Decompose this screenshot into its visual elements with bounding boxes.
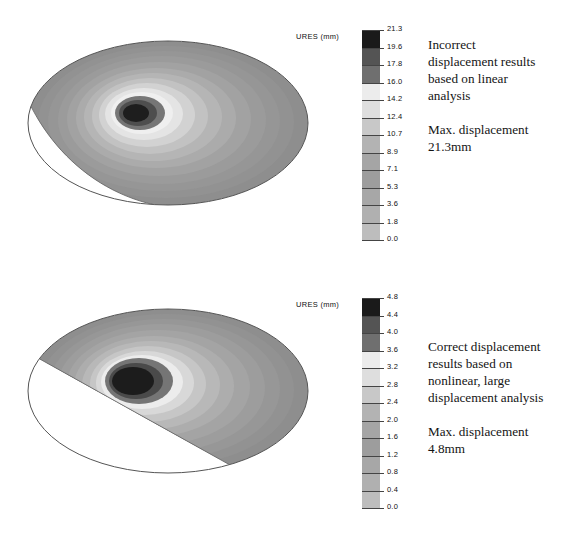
colorbar-tick: 4.8	[362, 298, 416, 299]
colorbar-tick: 3.6	[362, 351, 416, 352]
tick-line	[362, 223, 384, 224]
tick-line	[362, 508, 384, 509]
tick-line	[362, 473, 384, 474]
colorbar-tick: 7.1	[362, 170, 416, 171]
tick-label: 4.4	[387, 310, 398, 319]
tick-label: 4.8	[387, 292, 398, 301]
tick-line	[362, 170, 384, 171]
tick-line	[362, 48, 384, 49]
tick-line	[362, 386, 384, 387]
colorbar-tick: 1.8	[362, 223, 416, 224]
colorbar-tick: 4.4	[362, 316, 416, 317]
colorbar-tick: 1.6	[362, 438, 416, 439]
colorbar-tick: 0.0	[362, 240, 416, 241]
tick-label: 5.3	[387, 182, 398, 191]
tick-line	[362, 118, 384, 119]
panel-nonlinear-analysis: URES (mm) 4.8 4.4 4.0 3.6 3.2 2.8 2.4 2.…	[0, 268, 580, 536]
tick-label: 2.8	[387, 380, 398, 389]
tick-label: 1.8	[387, 217, 398, 226]
colorbar-tick: 12.4	[362, 118, 416, 119]
tick-line	[362, 351, 384, 352]
colorbar-tick: 2.0	[362, 421, 416, 422]
caption-max-label: Max. displacement	[428, 121, 576, 138]
tick-label: 2.0	[387, 415, 398, 424]
tick-label: 3.6	[387, 345, 398, 354]
caption-spacer	[428, 406, 576, 423]
colorbar-tick: 21.3	[362, 30, 416, 31]
tick-label: 1.6	[387, 432, 398, 441]
colorbar-tick: 0.8	[362, 473, 416, 474]
caption-max-value: 4.8mm	[428, 440, 576, 457]
caption-line: Correct displacement	[428, 338, 576, 355]
panel-linear-analysis: URES (mm) 21.3 19.6 17.8 16.0 14.2 12.4 …	[0, 0, 580, 268]
colorbar-tick: 8.9	[362, 153, 416, 154]
caption-line: results based on	[428, 355, 576, 372]
tick-line	[362, 438, 384, 439]
tick-line	[362, 421, 384, 422]
tick-line	[362, 403, 384, 404]
colorbar-tick: 1.2	[362, 456, 416, 457]
colorbar-linear: URES (mm) 21.3 19.6 17.8 16.0 14.2 12.4 …	[296, 8, 416, 258]
tick-line	[362, 188, 384, 189]
colorbar-tick: 2.4	[362, 403, 416, 404]
contour-plot-nonlinear	[18, 286, 318, 501]
tick-label: 4.0	[387, 327, 398, 336]
caption-nonlinear: Correct displacement results based on no…	[428, 338, 576, 457]
tick-line	[362, 30, 384, 31]
colorbar-tick: 10.7	[362, 135, 416, 136]
tick-line	[362, 153, 384, 154]
tick-label: 21.3	[387, 24, 402, 33]
colorbar-tick: 14.2	[362, 100, 416, 101]
tick-label: 10.7	[387, 129, 402, 138]
tick-line	[362, 100, 384, 101]
colorbar-title: URES (mm)	[296, 32, 339, 41]
tick-label: 17.8	[387, 59, 402, 68]
tick-line	[362, 83, 384, 84]
tick-line	[362, 456, 384, 457]
colorbar-title: URES (mm)	[296, 300, 339, 309]
contour-bands-nonlinear	[18, 286, 318, 501]
colorbar-tick: 0.0	[362, 508, 416, 509]
caption-line: based on linear	[428, 70, 576, 87]
colorbar-ticks: 4.8 4.4 4.0 3.6 3.2 2.8 2.4 2.0 1.6 1.2 …	[362, 298, 416, 508]
tick-line	[362, 298, 384, 299]
tick-label: 19.6	[387, 42, 402, 51]
colorbar-tick: 4.0	[362, 333, 416, 334]
tick-label: 2.4	[387, 397, 398, 406]
colorbar-tick: 3.2	[362, 368, 416, 369]
colorbar-ticks: 21.3 19.6 17.8 16.0 14.2 12.4 10.7 8.9 7…	[362, 30, 416, 240]
colorbar-tick: 17.8	[362, 65, 416, 66]
tick-line	[362, 240, 384, 241]
tick-line	[362, 368, 384, 369]
tick-line	[362, 491, 384, 492]
caption-linear: Incorrect displacement results based on …	[428, 36, 576, 155]
tick-label: 12.4	[387, 112, 402, 121]
tick-label: 0.4	[387, 485, 398, 494]
colorbar-tick: 3.6	[362, 205, 416, 206]
caption-line: analysis	[428, 87, 576, 104]
tick-label: 7.1	[387, 164, 398, 173]
caption-spacer	[428, 104, 576, 121]
colorbar-tick: 5.3	[362, 188, 416, 189]
tick-line	[362, 316, 384, 317]
colorbar-nonlinear: URES (mm) 4.8 4.4 4.0 3.6 3.2 2.8 2.4 2.…	[296, 276, 416, 526]
tick-label: 14.2	[387, 94, 402, 103]
colorbar-tick: 16.0	[362, 83, 416, 84]
tick-label: 3.6	[387, 199, 398, 208]
tick-line	[362, 333, 384, 334]
contour-bands-linear	[18, 18, 318, 233]
tick-label: 0.0	[387, 234, 398, 243]
colorbar-tick: 0.4	[362, 491, 416, 492]
caption-line: Incorrect	[428, 36, 576, 53]
caption-max-value: 21.3mm	[428, 138, 576, 155]
tick-label: 1.2	[387, 450, 398, 459]
tick-label: 3.2	[387, 362, 398, 371]
contour-plot-linear	[18, 18, 318, 233]
tick-label: 16.0	[387, 77, 402, 86]
caption-line: displacement results	[428, 53, 576, 70]
tick-label: 0.8	[387, 467, 398, 476]
tick-line	[362, 65, 384, 66]
tick-label: 8.9	[387, 147, 398, 156]
caption-line: displacement analysis	[428, 389, 576, 406]
caption-max-label: Max. displacement	[428, 423, 576, 440]
